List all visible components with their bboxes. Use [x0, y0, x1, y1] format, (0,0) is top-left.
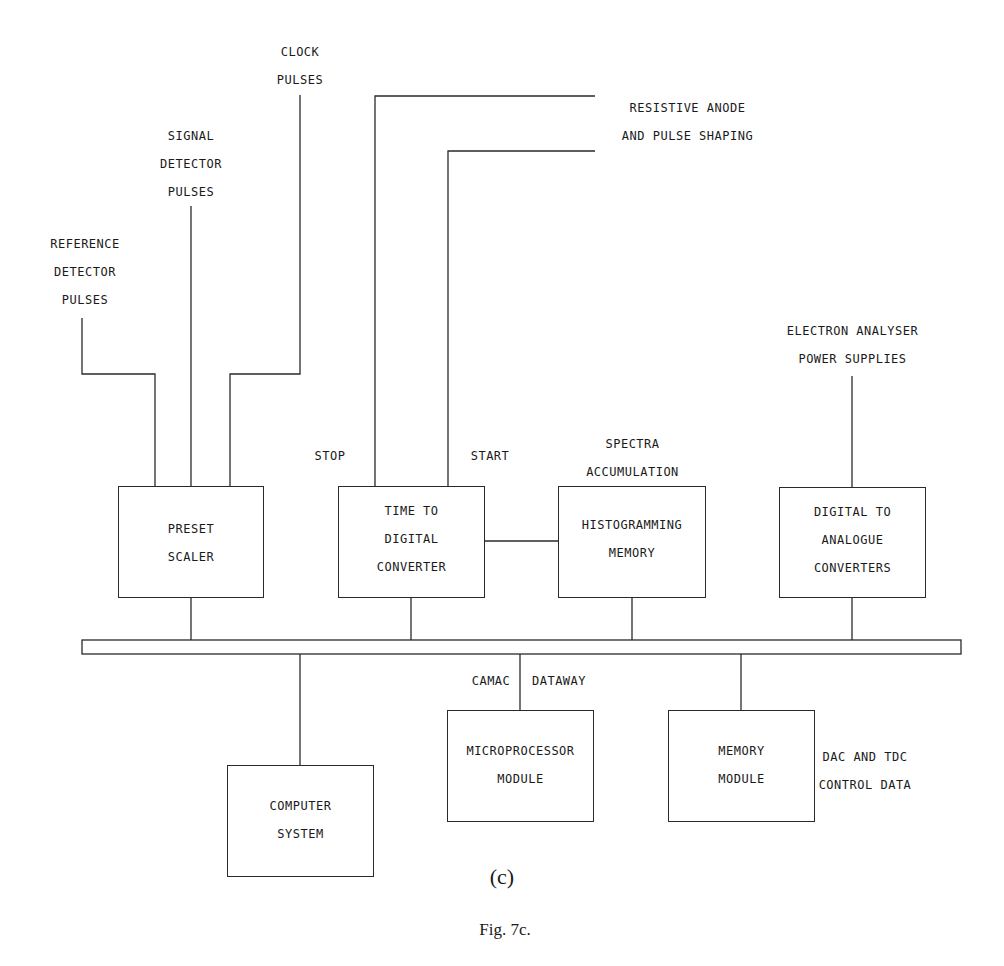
block-computer-system: COMPUTER SYSTEM [227, 765, 374, 877]
figure-caption: Fig. 7c. [440, 920, 570, 940]
label-reference-detector-pulses: REFERENCE DETECTOR PULSES [30, 230, 140, 314]
subfigure-label: (c) [452, 864, 552, 890]
label-dataway: DATAWAY [526, 667, 592, 695]
wire-start [448, 151, 595, 486]
label-signal-detector-pulses: SIGNAL DETECTOR PULSES [136, 122, 246, 206]
block-preset-scaler: PRESET SCALER [118, 486, 264, 598]
block-microprocessor-module: MICROPROCESSOR MODULE [447, 710, 594, 822]
label-electron-analyser-power-supplies: ELECTRON ANALYSER POWER SUPPLIES [770, 317, 935, 373]
block-histogramming-memory: HISTOGRAMMING MEMORY [558, 486, 706, 598]
wire-stop [375, 96, 595, 486]
block-time-to-digital-converter: TIME TO DIGITAL CONVERTER [338, 486, 485, 598]
label-clock-pulses: CLOCK PULSES [255, 38, 345, 94]
block-digital-to-analogue-converters: DIGITAL TO ANALOGUE CONVERTERS [779, 487, 926, 598]
camac-dataway-bus [82, 640, 961, 654]
label-spectra-accumulation: SPECTRA ACCUMULATION [575, 430, 690, 486]
block-memory-module: MEMORY MODULE [668, 710, 815, 822]
label-dac-tdc-control-data: DAC AND TDC CONTROL DATA [810, 743, 920, 799]
label-stop: STOP [305, 442, 355, 470]
label-resistive-anode: RESISTIVE ANODE AND PULSE SHAPING [600, 94, 775, 150]
label-start: START [460, 442, 520, 470]
block-diagram: REFERENCE DETECTOR PULSES SIGNAL DETECTO… [0, 0, 1004, 966]
wire-reference [82, 318, 155, 486]
label-camac: CAMAC [465, 667, 517, 695]
